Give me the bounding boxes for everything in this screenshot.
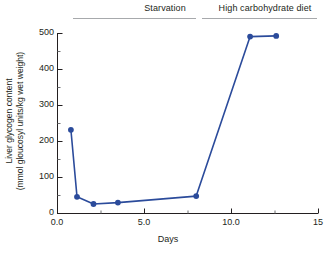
data-points-liver-glycogen	[68, 33, 279, 207]
figure: Starvation High carbohydrate diet Liver …	[0, 0, 330, 254]
data-point	[68, 127, 74, 133]
data-point	[91, 201, 97, 207]
data-line-liver-glycogen	[71, 36, 276, 204]
data-point	[115, 200, 121, 206]
data-point	[273, 33, 279, 39]
data-point	[74, 194, 80, 200]
data-point	[193, 193, 199, 199]
data-point	[247, 34, 253, 40]
plot-area	[0, 0, 330, 254]
